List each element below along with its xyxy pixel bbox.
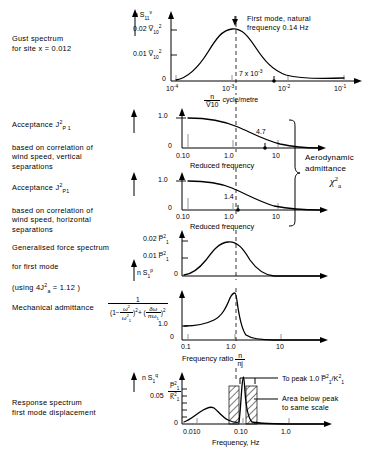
x-axis-label-response: Frequency, Hz bbox=[212, 438, 260, 447]
y-tick-fraction-response: P̅21 K̅21 bbox=[168, 381, 181, 403]
annotation-4.7: 4.7 bbox=[256, 128, 266, 135]
y-tick-label-0.01-gf: 0.01 P̅21 bbox=[143, 251, 169, 262]
x-tick-1e-3: 10-3 bbox=[222, 84, 234, 92]
x-tick-0.10-response: 0.10 bbox=[234, 428, 248, 435]
x-tick-1.0-ma: 1.0 bbox=[226, 343, 236, 350]
x-tick-10-ma: 10 bbox=[276, 343, 284, 350]
y-tick-label-0-ma: 0 bbox=[170, 333, 174, 340]
x-tick-1.0-response: 1.0 bbox=[281, 428, 291, 435]
y-tick-label-1.0-ma: 1.0 bbox=[158, 320, 168, 327]
x-tick-1e-1: 10-1 bbox=[334, 84, 346, 92]
y-tick-label-0-gf: 0 bbox=[174, 270, 178, 277]
y-tick-label-1.0-ah: 1.0 bbox=[158, 176, 168, 183]
axes-acceptance-h bbox=[179, 172, 328, 213]
row-label-gust-spectrum: Gust spectrum for site x = 0.012 bbox=[12, 34, 71, 53]
aerodynamic-bracket bbox=[286, 118, 302, 228]
y-axis-arrow-acceptance-h bbox=[128, 171, 140, 197]
marker-1.4 bbox=[236, 205, 240, 212]
row-label-generalised-force: Generalised force spectrum for first mod… bbox=[12, 233, 109, 297]
annotation-7e-3: 7 x 10-3 bbox=[239, 69, 262, 77]
marker-4.7 bbox=[263, 143, 267, 150]
y-tick-label-002: 0.02 V̅102 bbox=[133, 24, 161, 35]
row-label-mechanical-admittance: Mechanical admittance bbox=[12, 303, 94, 312]
x-tick-0.010-response: 0.010 bbox=[183, 428, 201, 435]
x-tick-1e-2: 10-2 bbox=[278, 84, 290, 92]
y-tick-label-0.02-gf: 0.02 P̅21 bbox=[143, 234, 169, 245]
y-tick-label-zero-gust: 0 bbox=[162, 75, 166, 82]
x-tick-10-ah: 10 bbox=[272, 213, 280, 220]
y-ticks-gust bbox=[171, 30, 177, 55]
row-label-acceptance-horizontal: Acceptance J2P1 based on correlation of … bbox=[12, 171, 93, 235]
row-label-acceptance-vertical: Acceptance J2P 1 based on correlation of… bbox=[12, 108, 93, 172]
y-axis-arrow-response bbox=[128, 371, 140, 393]
y-tick-label-0-response: 0 bbox=[174, 419, 178, 426]
x-axis-label-mechanical-admittance: Frequency ratio nnj bbox=[182, 352, 245, 367]
curve-mechanical-admittance bbox=[184, 293, 320, 340]
y-tick-label-1.0-av: 1.0 bbox=[158, 112, 168, 119]
y-tick-label-0.05-response: 0.05 bbox=[150, 392, 164, 399]
x-tick-0.10-av: 0.10 bbox=[176, 152, 190, 159]
axes-mechanical-admittance bbox=[179, 290, 328, 343]
x-tick-0.10-ah: 0.10 bbox=[176, 213, 190, 220]
aerodynamic-admittance-symbol: χ2a bbox=[330, 175, 341, 190]
x-tick-0.1-ma: 0.1 bbox=[181, 343, 191, 350]
annotation-to-peak: To peak 1.0 P̅21/K21 bbox=[282, 373, 344, 385]
curve-generalised-force bbox=[184, 242, 320, 276]
axes-generalised-force bbox=[179, 230, 328, 279]
axes-acceptance-v bbox=[179, 108, 326, 151]
annotation-1.4: 1.4 bbox=[224, 193, 234, 200]
annotation-first-mode: First mode, natural frequency 0.14 Hz bbox=[247, 14, 311, 33]
aerodynamic-admittance-label: Aerodynamic admittance bbox=[305, 152, 354, 174]
y-tick-label-001: 0.01 V̅102 bbox=[133, 49, 161, 60]
marker-7e-3 bbox=[272, 76, 276, 83]
x-tick-1e-4: 10-4 bbox=[166, 84, 178, 92]
y-tick-label-0-av: 0 bbox=[168, 142, 172, 149]
row-label-response-spectrum: Response spectrum first mode displacemen… bbox=[12, 398, 96, 417]
x-ticks-mechanical-admittance bbox=[188, 334, 281, 340]
annotation-area-below-peak: Area below peak to same scale bbox=[282, 394, 339, 413]
y-axis-label-gust: n S11v bbox=[134, 10, 152, 21]
first-mode-arrow-icon bbox=[228, 14, 242, 26]
x-tick-1.0-av: 1.0 bbox=[224, 152, 234, 159]
panel-generalised-force bbox=[150, 230, 382, 286]
x-tick-1.0-ah: 1.0 bbox=[224, 213, 234, 220]
y-axis-arrow-acceptance-v bbox=[128, 108, 140, 134]
y-tick-label-0-ah: 0 bbox=[168, 204, 172, 211]
x-tick-10-av: 10 bbox=[272, 152, 280, 159]
y-ticks-response bbox=[182, 389, 187, 417]
